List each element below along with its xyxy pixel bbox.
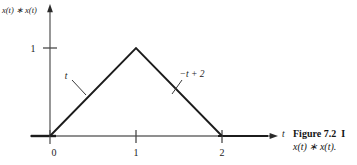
y-tick-label-1: 1 <box>31 43 36 54</box>
figure-caption: Figure 7.2I x(t) ∗ x(t). <box>293 128 357 153</box>
figure-container: x(t) ∗ x(t) 1 0 1 2 t t −t + 2 Figure 7.… <box>0 0 357 165</box>
x-tick-label-1: 1 <box>134 147 139 158</box>
caption-figure-number: Figure 7.2 <box>293 128 336 139</box>
triangle-waveform <box>50 48 222 136</box>
x-axis-label: t <box>282 129 285 139</box>
x-axis-arrowhead <box>270 133 278 139</box>
x-tick-label-0: 0 <box>52 147 57 158</box>
leader-line-rising <box>72 80 86 95</box>
annotation-falling-slope: −t + 2 <box>180 69 205 79</box>
x-tick-label-2: 2 <box>220 147 225 158</box>
annotation-rising-slope: t <box>65 71 68 81</box>
caption-line-1: Figure 7.2I <box>293 128 357 140</box>
caption-truncated-text: I <box>336 128 345 139</box>
caption-line-2: x(t) ∗ x(t). <box>293 141 357 153</box>
y-axis-label: x(t) ∗ x(t) <box>1 5 37 15</box>
y-axis-arrowhead <box>47 4 53 12</box>
